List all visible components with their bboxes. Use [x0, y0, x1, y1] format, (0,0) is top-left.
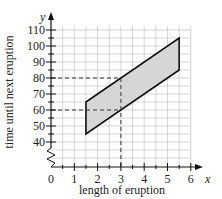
- y-tick-label: 80: [33, 71, 45, 85]
- y-tick-label: 40: [33, 135, 45, 149]
- x-tick-label: 6: [188, 172, 194, 186]
- y-axis-arrow-icon: [48, 12, 54, 20]
- y-tick-label: 70: [33, 87, 45, 101]
- y-axis-title: time until next eruption: [2, 36, 16, 149]
- eruption-chart: 0123456405060708090100110 y x length of …: [0, 0, 222, 199]
- x-axis-variable: x: [204, 172, 211, 186]
- x-axis-arrow-icon: [195, 164, 203, 170]
- x-tick-label: 1: [71, 172, 77, 186]
- x-tick-label: 5: [165, 172, 171, 186]
- y-tick-label: 100: [27, 39, 45, 53]
- y-tick-label: 60: [33, 103, 45, 117]
- x-axis-title: length of eruption: [79, 183, 165, 197]
- x-tick-label: 0: [48, 172, 54, 186]
- y-tick-label: 90: [33, 55, 45, 69]
- axis-break-icon: [47, 148, 55, 167]
- y-axis-variable: y: [39, 10, 46, 24]
- y-tick-label: 50: [33, 119, 45, 133]
- y-tick-label: 110: [27, 23, 45, 37]
